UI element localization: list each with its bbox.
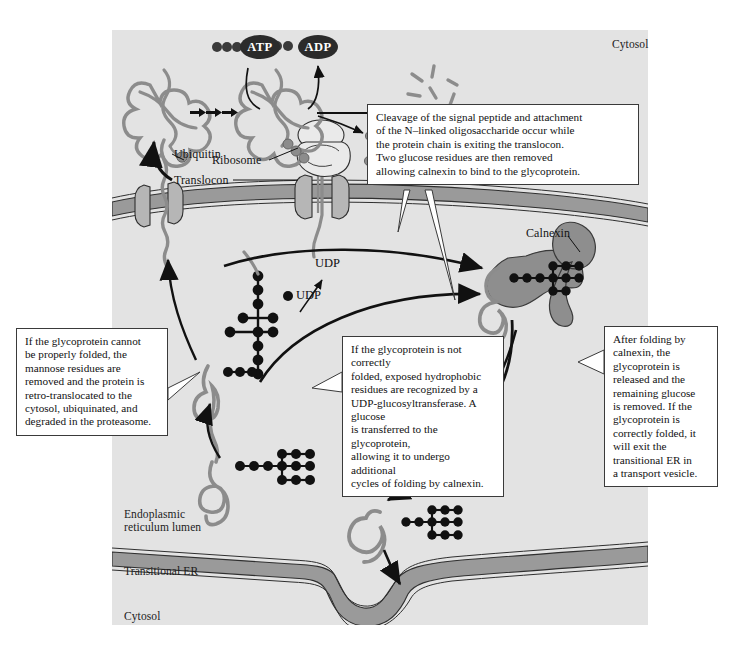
part-label-calnexin: Calnexin	[526, 226, 570, 241]
callout-udp-glucosyltransferase: If the glycoprotein is not correctly fol…	[342, 336, 504, 497]
region-label-cytosol-bottom: Cytosol	[124, 610, 161, 623]
arrow-vesicle-budding	[384, 550, 400, 584]
callout-right-line-9: will exit the	[613, 440, 710, 453]
part-label-translocon: Translocon	[174, 173, 229, 188]
callout-left-line-6: cytosol, ubiquinated, and	[25, 402, 160, 415]
callout-center-line-4: UDP-glucosyltransferase. A glucose	[351, 397, 496, 424]
figure-root: Cytosol Endoplasmic reticulum lumen Tran…	[0, 0, 730, 653]
callout-right-line-7: glycoprotein is	[613, 413, 710, 426]
callout-right-line-4: released and the	[613, 373, 710, 386]
callout-right-line-3: glycoprotein is	[613, 360, 710, 373]
callout-top-line-3: the protein chain is exiting the translo…	[376, 138, 631, 151]
callout-left-line-7: degraded in the proteasome.	[25, 415, 160, 428]
udp-released-label: UDP	[315, 256, 340, 271]
callout-right-line-2: calnexin, the	[613, 346, 710, 359]
polyubiquitinated-protein	[236, 70, 323, 166]
callout-transport-vesicle-exit: After folding by calnexin, the glycoprot…	[604, 326, 718, 487]
udp-free-label: UDP	[296, 288, 321, 303]
callout-left-line-4: removed and the protein is	[25, 375, 160, 388]
callout-top-line-4: Two glucose residues are then removed	[376, 151, 631, 164]
arrow-to-erad-translocon	[168, 260, 196, 360]
callout-left-line-5: retro-translocated to the	[25, 389, 160, 402]
unfolded-glycoprotein-left	[194, 366, 257, 462]
callout-center-line-6: allowing it to undergo additional	[351, 450, 496, 477]
callout-right-line-10: transitional ER in	[613, 454, 710, 467]
udp-free-dot	[283, 291, 293, 301]
glycan-nascent	[225, 271, 279, 380]
callout-center-line-5: is transferred to the glycoprotein,	[351, 423, 496, 450]
callout-center-line-2: folded, exposed hydrophobic	[351, 370, 496, 383]
atp-pill: ATP	[240, 35, 280, 59]
region-label-transitional-er: Transitional ER	[124, 565, 198, 578]
callout-right-line-5: remaining glucose	[613, 387, 710, 400]
callout-left-line-2: be properly folded, the	[25, 348, 160, 361]
dashed-transfer-arrows	[190, 108, 238, 117]
callout-top-line-1: Cleavage of the signal peptide and attac…	[376, 111, 631, 124]
callout-right-line-6: is removed. If the	[613, 400, 710, 413]
callout-top-line-5: allowing calnexin to bind to the glycopr…	[376, 165, 631, 178]
callout-left-line-3: mannose residues are	[25, 362, 160, 375]
callout-right-line-11: a transport vesicle.	[613, 467, 710, 480]
callout-left-line-1: If the glycoprotein cannot	[25, 335, 160, 348]
region-label-er-lumen: Endoplasmic reticulum lumen	[124, 508, 201, 534]
folded-glycoprotein-exit	[349, 505, 463, 562]
callout-erad-degradation: If the glycoprotein cannot be properly f…	[16, 328, 168, 436]
callout-center-line-3: residues are recognized by a	[351, 383, 496, 396]
adp-pill: ADP	[298, 35, 338, 59]
callout-center-line-1: If the glycoprotein is not correctly	[351, 343, 496, 370]
callout-right-line-1: After folding by	[613, 333, 710, 346]
callout-center-line-7: cycles of folding by calnexin.	[351, 477, 496, 490]
arrow-to-calnexin-upper	[224, 250, 482, 268]
callout-signal-peptide-cleavage: Cleavage of the signal peptide and attac…	[367, 104, 639, 185]
part-label-ribosome: Ribosome	[212, 153, 261, 168]
callout-top-line-2: of the N–linked oligosaccharide occur wh…	[376, 124, 631, 137]
arrow-atp-in	[246, 68, 260, 109]
atp-ubiquitin-beads	[212, 42, 242, 52]
region-label-cytosol-top: Cytosol	[612, 38, 649, 51]
callout-right-line-8: correctly folded, it	[613, 427, 710, 440]
